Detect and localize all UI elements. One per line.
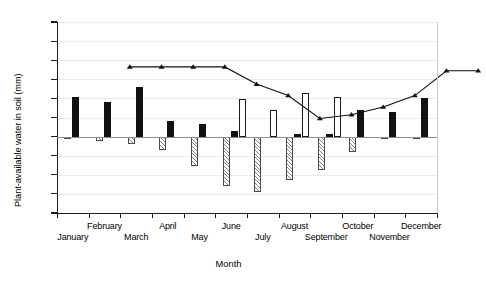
x-tick <box>405 213 406 218</box>
y-tick <box>51 60 57 61</box>
y-axis-title: Plant-available water in soil (mm) <box>13 73 23 207</box>
soil-water-line <box>130 67 478 119</box>
y-tick <box>51 193 57 194</box>
x-tick <box>247 213 248 218</box>
x-axis-title: Month <box>0 259 457 269</box>
line-markers <box>127 64 481 120</box>
x-tick <box>215 213 216 218</box>
axis-top <box>57 22 437 23</box>
x-tick-label: November <box>350 232 430 242</box>
y-tick <box>51 21 57 22</box>
x-tick <box>184 213 185 218</box>
y-axis-line <box>57 22 58 214</box>
zero-line <box>57 137 437 138</box>
y-tick <box>51 79 57 80</box>
y-tick <box>51 41 57 42</box>
x-tick <box>89 213 90 218</box>
axis-right <box>437 22 438 214</box>
plot-area <box>57 22 437 213</box>
y-tick <box>51 98 57 99</box>
x-tick <box>374 213 375 218</box>
y-tick <box>51 174 57 175</box>
x-tick <box>342 213 343 218</box>
x-tick <box>120 213 121 218</box>
x-tick <box>279 213 280 218</box>
x-tick <box>57 213 58 218</box>
y-tick <box>51 117 57 118</box>
bar-gain-bar <box>104 102 111 136</box>
line-series-svg <box>114 44 486 235</box>
bar-gain-bar <box>72 97 79 137</box>
gridline <box>57 41 437 42</box>
line-marker <box>254 82 260 86</box>
x-tick-label: December <box>381 221 461 231</box>
x-tick <box>310 213 311 218</box>
x-tick <box>152 213 153 218</box>
x-tick <box>437 213 438 218</box>
y-tick <box>51 155 57 156</box>
